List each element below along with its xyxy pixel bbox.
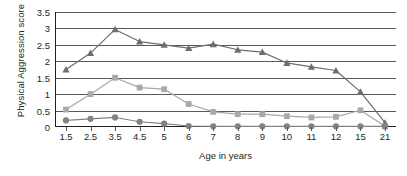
x-tick-label: 6 — [186, 131, 191, 142]
x-tick-label: 15 — [355, 131, 366, 142]
data-point-square — [235, 111, 241, 117]
series-square — [63, 75, 388, 129]
data-point-circle — [112, 114, 118, 120]
y-tick-label: 3.5 — [37, 7, 50, 18]
series-circle — [63, 114, 388, 129]
x-axis-tick-labels: 1.52.53.54.5567891011121521 — [55, 131, 396, 145]
x-tick-label: 7 — [211, 131, 216, 142]
x-tick-label: 11 — [306, 131, 316, 142]
x-tick-label: 8 — [235, 131, 240, 142]
data-point-square — [210, 109, 216, 115]
data-point-square — [112, 75, 118, 81]
data-point-square — [308, 115, 314, 121]
data-series-layer — [55, 12, 396, 127]
x-tick-label: 9 — [260, 131, 265, 142]
data-point-square — [137, 85, 143, 91]
data-point-square — [63, 107, 69, 113]
data-point-square — [259, 111, 265, 117]
x-tick-label: 2.5 — [84, 131, 97, 142]
y-tick-label: 0.5 — [37, 105, 50, 116]
y-tick-label: 3 — [45, 23, 50, 34]
y-axis-title: Physical Aggression score — [15, 0, 26, 126]
x-tick-label: 5 — [161, 131, 166, 142]
y-tick-label: 0 — [45, 122, 50, 133]
y-tick-label: 1 — [45, 89, 50, 100]
data-point-triangle — [210, 41, 217, 48]
x-tick-label: 10 — [282, 131, 293, 142]
data-point-square — [284, 113, 290, 119]
data-point-square — [88, 91, 94, 97]
x-tick-label: 4.5 — [133, 131, 146, 142]
data-point-triangle — [136, 38, 143, 45]
data-point-circle — [137, 119, 143, 125]
data-point-circle — [87, 116, 93, 122]
data-point-circle — [161, 121, 167, 127]
y-tick-label: 2.5 — [37, 39, 50, 50]
plot-area — [55, 12, 396, 127]
data-point-triangle — [283, 59, 290, 66]
x-tick-label: 21 — [380, 131, 391, 142]
data-point-square — [186, 101, 192, 107]
x-tick-label: 12 — [331, 131, 342, 142]
y-axis-tick-labels: 00.511.522.533.5 — [26, 12, 52, 127]
data-point-square — [358, 107, 364, 113]
y-tick-label: 1.5 — [37, 72, 50, 83]
data-point-triangle — [111, 26, 118, 33]
series-triangle — [62, 26, 388, 126]
x-tick-label: 3.5 — [108, 131, 121, 142]
data-point-square — [333, 114, 339, 120]
data-point-triangle — [62, 66, 69, 73]
y-tick-label: 2 — [45, 56, 50, 67]
data-point-circle — [63, 117, 69, 123]
chart-figure: Physical Aggression score 00.511.522.533… — [0, 0, 407, 176]
data-point-square — [161, 86, 167, 92]
x-axis-title: Age in years — [55, 150, 396, 161]
x-tick-label: 1.5 — [59, 131, 72, 142]
